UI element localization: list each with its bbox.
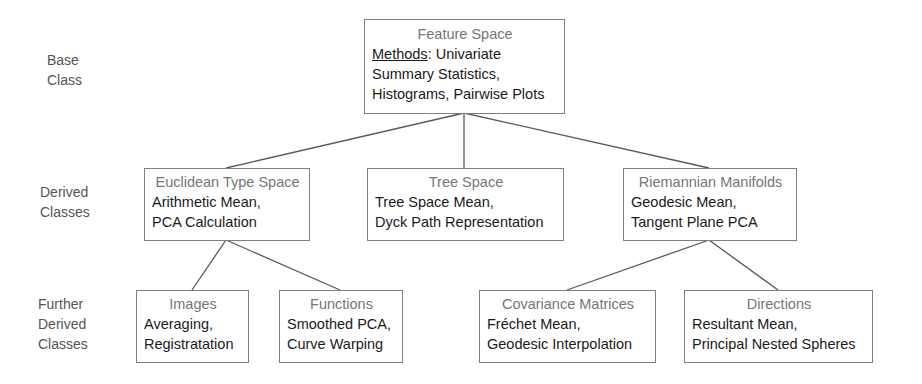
node-title: Directions [692, 294, 866, 314]
node-line: Histograms, Pairwise Plots [372, 84, 558, 104]
methods-first-item: : Univariate [428, 46, 501, 62]
node-euclidean-type-space: Euclidean Type Space Arithmetic Mean, PC… [144, 168, 310, 241]
edge-euclidean-functions [226, 240, 340, 290]
edge-feature-riemannian [464, 113, 709, 168]
node-title: Functions [287, 294, 396, 314]
node-line: PCA Calculation [152, 212, 303, 232]
class-hierarchy-diagram: Base Class Derived Classes Further Deriv… [0, 0, 922, 384]
level-label-line: Classes [40, 202, 90, 222]
level-label-derived: Derived Classes [40, 182, 90, 222]
edge-riemannian-covariance [567, 240, 709, 290]
node-methods-line: Methods: Univariate [372, 44, 558, 64]
node-title: Riemannian Manifolds [631, 172, 790, 192]
node-line: Fréchet Mean, [487, 314, 649, 334]
level-label-base: Base Class [47, 50, 82, 90]
node-line: Smoothed PCA, [287, 314, 396, 334]
edge-feature-euclidean [226, 113, 464, 168]
node-riemannian-manifolds: Riemannian Manifolds Geodesic Mean, Tang… [623, 168, 797, 241]
level-label-line: Derived [40, 182, 90, 202]
node-line: Geodesic Interpolation [487, 334, 649, 354]
node-line: Resultant Mean, [692, 314, 866, 334]
node-line: Averaging, [144, 314, 242, 334]
node-title: Feature Space [372, 24, 558, 44]
level-label-line: Derived [38, 314, 88, 334]
node-title: Covariance Matrices [487, 294, 649, 314]
node-line: Principal Nested Spheres [692, 334, 866, 354]
methods-label: Methods [372, 46, 428, 62]
node-title: Images [144, 294, 242, 314]
edge-riemannian-directions [709, 240, 778, 290]
node-line: Geodesic Mean, [631, 192, 790, 212]
node-title: Euclidean Type Space [152, 172, 303, 192]
node-tree-space: Tree Space Tree Space Mean, Dyck Path Re… [367, 168, 564, 241]
node-title: Tree Space [375, 172, 557, 192]
node-directions: Directions Resultant Mean, Principal Nes… [684, 290, 873, 363]
edge-euclidean-images [192, 240, 226, 290]
node-line: Summary Statistics, [372, 64, 558, 84]
node-line: Arithmetic Mean, [152, 192, 303, 212]
level-label-line: Class [47, 70, 82, 90]
level-label-line: Classes [38, 334, 88, 354]
node-images: Images Averaging, Registratation [136, 290, 249, 363]
level-label-further-derived: Further Derived Classes [38, 294, 88, 354]
level-label-line: Base [47, 50, 82, 70]
node-functions: Functions Smoothed PCA, Curve Warping [279, 290, 403, 363]
level-label-line: Further [38, 294, 88, 314]
node-feature-space: Feature Space Methods: Univariate Summar… [364, 19, 565, 114]
node-covariance-matrices: Covariance Matrices Fréchet Mean, Geodes… [479, 290, 656, 363]
node-line: Registratation [144, 334, 242, 354]
node-line: Tangent Plane PCA [631, 212, 790, 232]
node-line: Dyck Path Representation [375, 212, 557, 232]
node-line: Tree Space Mean, [375, 192, 557, 212]
node-line: Curve Warping [287, 334, 396, 354]
